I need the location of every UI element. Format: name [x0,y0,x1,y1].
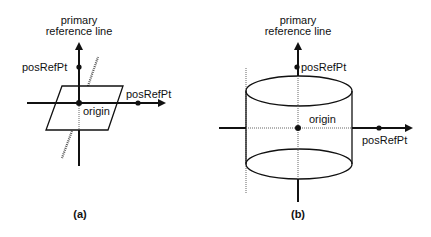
origin-point [76,100,82,106]
pos-ref-pt-vertical-label: posRefPt [22,61,67,73]
diagram-canvas: primary reference line posRefPt posRefPt… [0,0,431,237]
origin-label: origin [309,113,336,125]
pos-ref-pt-horizontal-point [135,100,140,105]
origin-label: origin [83,105,110,117]
axis-label-reference-line: reference line [265,25,332,37]
cylinder-bottom-ellipse [246,149,352,179]
tilted-line-upper [88,57,98,86]
pos-ref-pt-vertical-point [76,64,81,69]
pos-ref-pt-vertical-label: posRefPt [301,61,346,73]
caption-a: (a) [73,208,87,220]
cylinder-top-ellipse [246,76,352,106]
diagram-a: primary reference line posRefPt posRefPt… [22,14,171,220]
tilted-line-lower [62,131,72,158]
pos-ref-pt-horizontal-point [376,125,381,130]
origin-point [295,125,301,131]
pos-ref-pt-horizontal-label: posRefPt [126,88,171,100]
caption-b: (b) [291,208,305,220]
axis-label-reference-line: reference line [46,25,113,37]
pos-ref-pt-horizontal-label: posRefPt [362,134,407,146]
pos-ref-pt-vertical-point [294,64,299,69]
diagram-b: primary reference line posRefPt posRefPt… [219,14,411,220]
